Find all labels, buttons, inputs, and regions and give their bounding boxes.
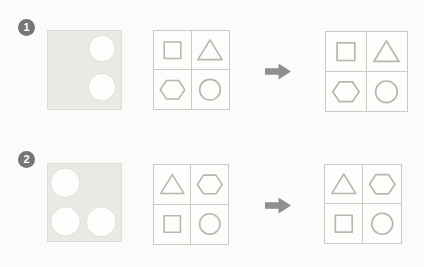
cutout-circle [86,207,116,237]
grid-cell-hexagon [363,165,401,204]
grid-cell-circle [191,205,228,245]
circle-shape-icon [364,205,400,242]
step-2-badge: 2 [18,151,35,168]
circle-shape-icon [367,73,406,111]
grid-cell-circle [363,204,401,243]
grid-cell-square [325,204,363,243]
triangle-shape-icon [155,166,190,203]
arrow-right-icon [265,62,291,81]
arrow-right-icon [265,196,291,215]
mask-cutouts [48,164,121,241]
triangle-shape-icon [326,166,362,202]
cutout-circle [89,35,115,61]
hexagon-shape-icon [364,166,400,202]
triangle-shape-icon [367,33,406,70]
square-shape-icon [155,205,190,243]
hexagon-shape-icon [192,166,228,203]
grid-cell-hexagon [154,70,192,109]
grid-cell-hexagon [326,72,367,111]
hexagon-shape-icon [327,73,365,111]
worksheet-figure: 1 2 [0,0,424,267]
cutout-circle [51,207,80,236]
grid-cell-triangle [325,165,363,204]
circle-shape-icon [192,71,228,108]
grid-cell-square [154,31,192,70]
result-shape-grid-1 [325,31,408,112]
arrow-right-icon [265,62,291,81]
grid-cell-triangle [192,31,230,70]
square-shape-icon [327,33,365,70]
grid-cell-square [154,205,191,245]
grid-cell-square [326,32,367,72]
mask-square-1 [47,30,122,110]
source-shape-grid-2 [153,164,229,245]
arrow-right-icon [265,196,291,215]
hexagon-shape-icon [155,71,190,108]
square-shape-icon [155,32,190,68]
cutout-circle [51,168,80,197]
result-shape-grid-2 [324,164,402,244]
circle-shape-icon [192,205,228,243]
grid-cell-hexagon [191,165,228,205]
triangle-shape-icon [192,32,228,68]
cutout-circle [88,73,115,100]
mask-cutouts [48,31,121,109]
grid-cell-triangle [154,165,191,205]
grid-cell-circle [192,70,230,109]
grid-cell-triangle [367,32,408,72]
step-1-badge: 1 [18,19,35,36]
source-shape-grid-1 [153,30,230,110]
mask-square-2 [47,163,122,242]
grid-cell-circle [367,72,408,111]
square-shape-icon [326,205,362,242]
